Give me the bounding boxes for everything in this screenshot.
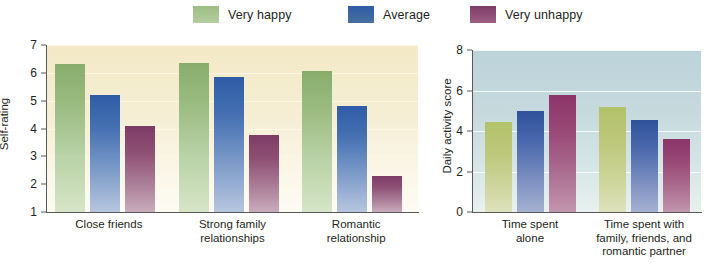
- bar-self-rating-0-very-happy: [55, 64, 85, 212]
- bar-self-rating-1-very-happy: [179, 63, 209, 212]
- x-axis-label: Time spent alone: [473, 218, 587, 245]
- y-axis-tick: [41, 128, 46, 129]
- bar-self-rating-2-very-happy: [302, 71, 332, 212]
- bar-self-rating-1-average: [214, 77, 244, 212]
- x-axis-label: Time spent with family, friends, and rom…: [587, 218, 701, 259]
- x-axis-label: Close friends: [47, 218, 171, 232]
- bar-daily-activity-0-average: [517, 111, 544, 212]
- bar-self-rating-1-very-unhappy: [249, 135, 279, 212]
- y-axis-tick-label: 1: [21, 205, 37, 219]
- y-axis-tick: [41, 100, 46, 101]
- y-axis-tick-label: 6: [21, 66, 37, 80]
- y-axis-tick: [467, 50, 472, 51]
- bar-daily-activity-0-very-happy: [485, 122, 512, 212]
- gridline: [47, 45, 418, 46]
- y-axis-tick: [41, 45, 46, 46]
- gridline: [47, 73, 418, 74]
- bar-self-rating-0-average: [90, 95, 120, 212]
- y-axis-tick: [467, 90, 472, 91]
- y-axis-tick: [467, 171, 472, 172]
- y-axis-tick: [41, 184, 46, 185]
- y-axis-tick-label: 4: [21, 122, 37, 136]
- y-axis-tick-label: 6: [447, 84, 463, 98]
- plot-area-self-rating: [47, 45, 418, 212]
- y-axis-tick-label: 5: [21, 94, 37, 108]
- x-axis-label: Romantic relationship: [294, 218, 418, 245]
- chart-daily-activity: Daily activity score 02468 Time spent al…: [425, 0, 705, 264]
- bar-daily-activity-1-very-unhappy: [663, 139, 690, 212]
- plot-area-daily-activity: [473, 50, 701, 212]
- y-axis-tick-label: 7: [21, 38, 37, 52]
- y-axis-tick-label: 4: [447, 124, 463, 138]
- x-axis-line: [472, 212, 702, 213]
- gridline: [473, 50, 701, 51]
- y-axis-tick-label: 8: [447, 43, 463, 57]
- x-axis-line: [46, 212, 419, 213]
- y-axis-tick-label: 2: [21, 177, 37, 191]
- y-axis-tick-label: 0: [447, 205, 463, 219]
- bar-self-rating-2-average: [337, 106, 367, 212]
- x-axis-label: Strong family relationships: [171, 218, 295, 245]
- bar-self-rating-2-very-unhappy: [372, 176, 402, 212]
- y-axis-tick: [41, 156, 46, 157]
- bar-self-rating-0-very-unhappy: [125, 126, 155, 212]
- bar-daily-activity-1-average: [631, 120, 658, 212]
- y-axis-tick: [467, 131, 472, 132]
- gridline: [473, 91, 701, 92]
- bar-daily-activity-1-very-happy: [599, 107, 626, 212]
- bar-daily-activity-0-very-unhappy: [549, 95, 576, 212]
- y-axis-tick-label: 3: [21, 149, 37, 163]
- y-axis-tick-label: 2: [447, 165, 463, 179]
- y-axis-tick: [41, 72, 46, 73]
- chart-self-rating: Self-rating 1234567 Close friendsStrong …: [0, 0, 425, 264]
- y-axis-title-self-rating: Self-rating: [0, 98, 10, 150]
